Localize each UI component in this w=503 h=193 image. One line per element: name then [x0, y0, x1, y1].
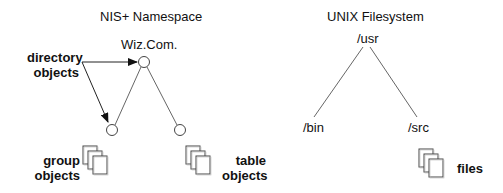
nis-tree-edges [115, 67, 177, 125]
directory-label-line1: directory [27, 50, 79, 65]
unix-bin-label: /bin [303, 121, 324, 134]
group-label-line2: objects [30, 168, 80, 183]
unix-tree-edges [314, 47, 417, 117]
table-documents-icon [186, 146, 211, 175]
unix-src-label: /src [408, 121, 429, 134]
files-label: files [457, 161, 483, 176]
table-label-line2: objects [222, 168, 266, 183]
group-label-line1: group [30, 153, 80, 168]
unix-root-label: /usr [357, 32, 379, 45]
nis-root-label: Wiz.Com. [121, 38, 177, 51]
group-documents-icon [83, 146, 108, 175]
group-node-icon [107, 125, 118, 136]
directory-arrows [82, 62, 137, 122]
unix-title: UNIX Filesystem [327, 10, 424, 23]
nis-title: NIS+ Namespace [100, 10, 202, 23]
root-node-icon [139, 57, 150, 68]
table-node-icon [175, 125, 186, 136]
table-label-line1: table [222, 153, 266, 168]
files-documents-icon [419, 149, 444, 178]
table-objects-label: table objects [222, 153, 266, 183]
directory-objects-label: directory objects [27, 50, 79, 80]
directory-label-line2: objects [27, 65, 79, 80]
group-objects-label: group objects [30, 153, 80, 183]
